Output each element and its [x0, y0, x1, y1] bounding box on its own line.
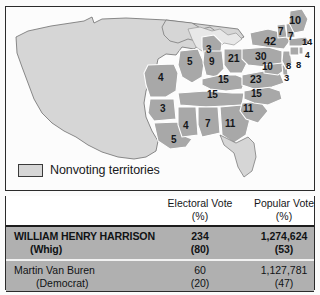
electoral-vote-pct: (80)	[156, 243, 244, 256]
popular-vote-pct: (53)	[244, 243, 320, 256]
map-value-south-carolina: 11	[243, 104, 253, 114]
map-value-virginia: 23	[250, 74, 261, 85]
map-value-kentucky: 15	[218, 75, 229, 85]
state-rhode-island	[299, 47, 303, 54]
candidate-cell-winner: WILLIAM HENRY HARRISON (Whig)	[14, 230, 159, 256]
map-value-vermont: 7	[278, 27, 283, 37]
map-value-missouri: 4	[158, 73, 163, 83]
column-header-electoral-vote: Electoral Vote (%)	[156, 197, 244, 222]
electoral-vote-value: 60	[194, 264, 206, 276]
popular-vote-cell: 1,127,781 (47)	[244, 264, 320, 290]
map-legend: Nonvoting territories	[18, 163, 160, 177]
electoral-vote-pct: (20)	[156, 277, 244, 290]
map-value-maine: 10	[289, 15, 301, 26]
map-value-michigan: 3	[206, 45, 211, 55]
figure-root: 10 7 7 14 42 4 8 8 30 10 3 23 21 3 9 5 4…	[0, 0, 320, 295]
nonvoting-territory-florida	[220, 135, 256, 177]
popular-vote-value: 1,274,624	[261, 230, 308, 242]
electoral-vote-cell: 234 (80)	[156, 230, 244, 256]
table-row: Martin Van Buren (Democrat) 60 (20) 1,12…	[6, 261, 314, 292]
map-value-mississippi: 4	[183, 121, 188, 131]
candidate-party: (Democrat)	[14, 277, 159, 290]
candidate-name: WILLIAM HENRY HARRISON	[14, 230, 155, 242]
map-value-new-york: 42	[264, 36, 276, 47]
map-value-delaware: 3	[284, 73, 289, 83]
map-value-new-hampshire: 7	[288, 32, 293, 42]
column-header-electoral-pct: (%)	[156, 210, 244, 223]
map-value-north-carolina: 15	[251, 89, 262, 99]
column-header-electoral-vote-label: Electoral Vote	[168, 197, 233, 209]
map-panel: 10 7 7 14 42 4 8 8 30 10 3 23 21 3 9 5 4…	[5, 6, 315, 191]
map-value-alabama: 7	[205, 119, 210, 129]
map-value-georgia: 11	[225, 119, 235, 129]
column-header-popular-pct: (%)	[244, 210, 320, 223]
candidate-party: (Whig)	[14, 243, 159, 256]
table-header-row: Electoral Vote (%) Popular Vote (%)	[6, 196, 314, 227]
legend-label-nonvoting: Nonvoting territories	[50, 163, 160, 177]
election-results-table: Electoral Vote (%) Popular Vote (%) WILL…	[5, 196, 315, 290]
table-row: WILLIAM HENRY HARRISON (Whig) 234 (80) 1…	[6, 227, 314, 261]
map-value-rhode-island: 4	[305, 51, 310, 60]
state-connecticut	[290, 47, 299, 55]
popular-vote-value: 1,127,781	[261, 264, 308, 276]
map-value-new-jersey: 8	[286, 61, 291, 71]
map-value-connecticut: 8	[296, 60, 301, 70]
map-value-massachusetts: 14	[302, 37, 312, 47]
popular-vote-cell: 1,274,624 (53)	[244, 230, 320, 256]
nonvoting-territories-swatch	[18, 164, 43, 177]
electoral-vote-cell: 60 (20)	[156, 264, 244, 290]
popular-vote-pct: (47)	[244, 277, 320, 290]
map-value-illinois: 5	[187, 57, 192, 67]
column-header-popular-vote: Popular Vote (%)	[244, 197, 320, 222]
map-value-tennessee: 15	[207, 90, 218, 100]
map-value-indiana: 9	[209, 57, 214, 67]
map-value-arkansas: 3	[160, 104, 165, 114]
map-value-ohio: 21	[228, 53, 239, 64]
map-value-pennsylvania: 30	[255, 51, 266, 62]
column-header-popular-vote-label: Popular Vote	[254, 197, 314, 209]
map-value-maryland: 10	[262, 62, 273, 72]
candidate-cell-runner-up: Martin Van Buren (Democrat)	[14, 264, 159, 290]
map-value-louisiana: 5	[171, 135, 176, 145]
candidate-name: Martin Van Buren	[14, 264, 95, 276]
electoral-vote-value: 234	[191, 230, 209, 242]
